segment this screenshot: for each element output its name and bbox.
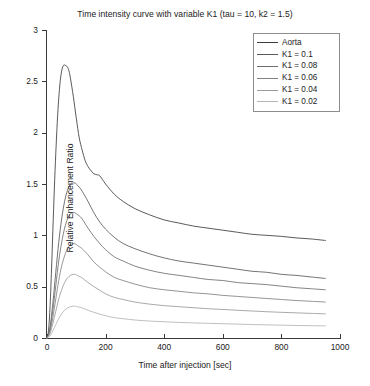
y-tick-label: 3 [0, 26, 38, 34]
legend-item-label: Aorta [282, 39, 302, 47]
x-axis-title: Time after injection [sec] [0, 360, 370, 370]
legend-box: AortaK1 = 0.1K1 = 0.08K1 = 0.06K1 = 0.04… [253, 33, 340, 112]
series-line [47, 213, 325, 338]
series-line [47, 183, 325, 338]
y-tick-label: 1 [0, 231, 38, 239]
series-line [47, 243, 325, 338]
legend-item-label: K1 = 0.04 [282, 86, 317, 94]
x-tick-label: 400 [144, 343, 184, 351]
legend-item[interactable]: K1 = 0.08 [254, 61, 339, 73]
legend-item-label: K1 = 0.02 [282, 98, 317, 106]
legend-item[interactable]: K1 = 0.04 [254, 84, 339, 96]
series-line [47, 306, 325, 338]
legend-line-swatch [257, 66, 278, 67]
legend-line-swatch [257, 101, 278, 102]
legend-item-label: K1 = 0.06 [282, 74, 317, 82]
x-tick-label: 600 [203, 343, 243, 351]
x-tick-label: 800 [261, 343, 301, 351]
y-axis-title: Relative Enhancement Ratio [65, 98, 75, 298]
series-line [47, 274, 325, 338]
legend-line-swatch [257, 54, 278, 55]
legend-line-swatch [257, 78, 278, 79]
legend-item[interactable]: K1 = 0.1 [254, 49, 339, 61]
y-tick-label: 2 [0, 128, 38, 136]
y-tick-label: 0.5 [0, 282, 38, 290]
x-tick-label: 1000 [320, 343, 360, 351]
y-tick-label: 0 [0, 334, 38, 342]
x-axis-line [46, 338, 341, 339]
legend-item[interactable]: Aorta [254, 37, 339, 49]
x-tick-label: 0 [27, 343, 67, 351]
legend-line-swatch [257, 90, 278, 91]
legend-line-swatch [257, 42, 278, 43]
legend-item-label: K1 = 0.08 [282, 62, 317, 70]
y-tick-label: 2.5 [0, 77, 38, 85]
x-tick-label: 200 [86, 343, 126, 351]
y-tick-label: 1.5 [0, 180, 38, 188]
legend-item[interactable]: K1 = 0.06 [254, 72, 339, 84]
chart-title: Time intensity curve with variable K1 (t… [0, 9, 370, 19]
figure-canvas: Time intensity curve with variable K1 (t… [0, 0, 370, 386]
legend-item[interactable]: K1 = 0.02 [254, 96, 339, 108]
x-tick-mark [340, 334, 341, 339]
legend-item-label: K1 = 0.1 [282, 51, 313, 59]
